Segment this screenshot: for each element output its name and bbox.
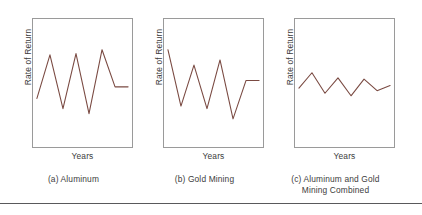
x-axis-label: Years <box>32 151 133 161</box>
panel-caption-line1: (b) Gold Mining <box>175 174 235 184</box>
panel-caption-line2: Mining Combined <box>270 185 401 196</box>
chart-panel-aluminum: Rate of Return Years (a) Aluminum <box>8 14 139 199</box>
panel-caption: (b) Gold Mining <box>139 174 270 185</box>
chart-panel-combined: Rate of Return Years (c) Aluminum and Go… <box>270 14 401 199</box>
footer-divider <box>0 203 422 204</box>
panel-caption: (c) Aluminum and Gold Mining Combined <box>270 174 401 196</box>
panel-caption-line1: (c) Aluminum and Gold <box>291 174 379 184</box>
panel-caption: (a) Aluminum <box>8 174 139 185</box>
plot-frame <box>294 18 395 148</box>
panel-caption-line1: (a) Aluminum <box>48 174 99 184</box>
data-line <box>37 50 128 114</box>
x-axis-label: Years <box>294 151 395 161</box>
plot-area-gold-mining: Rate of Return Years <box>139 14 270 154</box>
data-line <box>299 73 390 96</box>
diversification-figure: Rate of Return Years (a) Aluminum Rate o… <box>0 0 422 215</box>
data-line <box>168 50 259 119</box>
plot-frame <box>163 18 264 148</box>
line-chart-combined <box>295 19 394 147</box>
plot-area-aluminum: Rate of Return Years <box>8 14 139 154</box>
chart-panel-gold-mining: Rate of Return Years (b) Gold Mining <box>139 14 270 199</box>
x-axis-label: Years <box>163 151 264 161</box>
plot-area-combined: Rate of Return Years <box>270 14 401 154</box>
plot-frame <box>32 18 133 148</box>
line-chart-gold-mining <box>164 19 263 147</box>
line-chart-aluminum <box>33 19 132 147</box>
